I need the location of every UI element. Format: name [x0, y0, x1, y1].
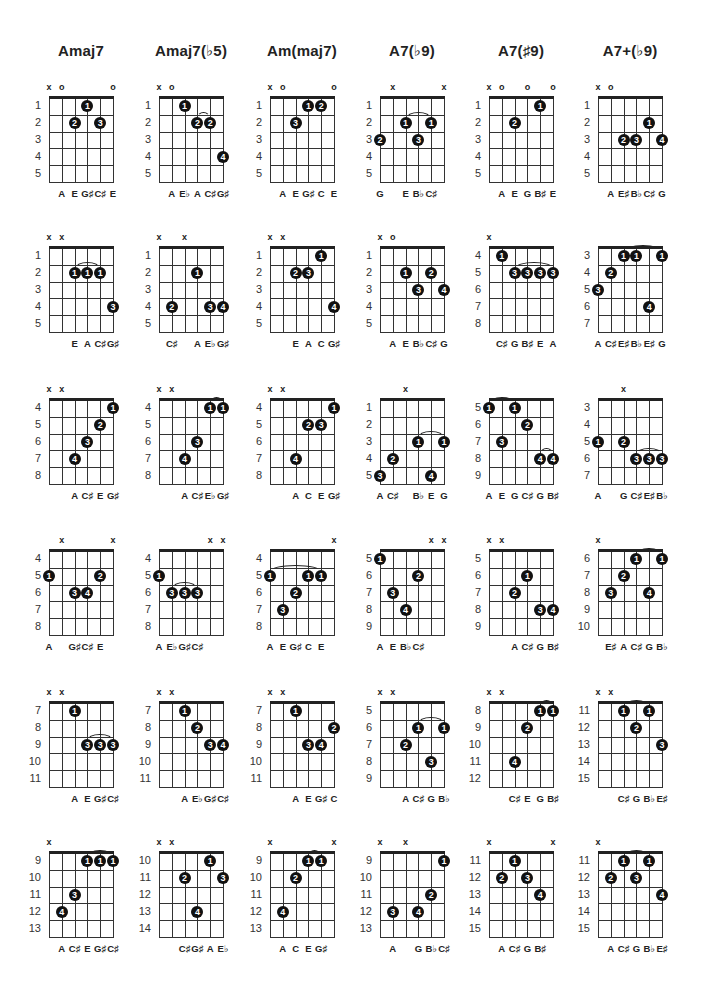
- string-line: [553, 551, 554, 635]
- fret-line: [49, 467, 114, 468]
- fret-number: 5: [248, 317, 262, 329]
- string-line: [502, 98, 503, 182]
- fret-line: [489, 601, 554, 602]
- finger-dot: 1: [618, 250, 630, 262]
- string-line: [636, 853, 637, 937]
- string-line: [49, 853, 50, 937]
- fret-number: 7: [137, 603, 151, 615]
- finger-dot: 1: [302, 100, 314, 112]
- fret-line: [270, 887, 335, 888]
- open-string-icon: o: [167, 82, 177, 92]
- finger-dot: 4: [656, 889, 668, 901]
- finger-dot: 1: [630, 250, 642, 262]
- string-line: [393, 853, 394, 937]
- finger-dot: 2: [302, 419, 314, 431]
- note-label: G: [654, 338, 670, 349]
- fret-line: [598, 937, 663, 938]
- fret-line: [49, 787, 114, 788]
- finger-dot: 1: [328, 402, 340, 414]
- string-line: [393, 703, 394, 787]
- finger-dot: 1: [191, 267, 203, 279]
- string-line: [553, 248, 554, 332]
- fret-number: 14: [576, 755, 590, 767]
- fret-number: 4: [248, 401, 262, 413]
- finger-dot: 4: [191, 906, 203, 918]
- muted-string-icon: x: [484, 837, 494, 847]
- fret-number: 5: [27, 569, 41, 581]
- fret-line: [489, 282, 554, 283]
- fret-line: [598, 298, 663, 299]
- fret-line: [270, 165, 335, 166]
- fret-number: 5: [27, 317, 41, 329]
- finger-dot: 3: [630, 453, 642, 465]
- fret-number: 4: [358, 452, 372, 464]
- finger-dot: 3: [81, 739, 93, 751]
- string-line: [380, 703, 381, 787]
- fret-number: 5: [467, 552, 481, 564]
- finger-dot: 3: [302, 267, 314, 279]
- string-line: [223, 248, 224, 332]
- finger-dot: 3: [630, 134, 642, 146]
- muted-string-icon: x: [388, 82, 398, 92]
- finger-dot: 3: [656, 453, 668, 465]
- fret-number: 8: [467, 452, 481, 464]
- nut-bar: [380, 701, 445, 704]
- fret-line: [270, 870, 335, 871]
- string-line: [283, 98, 284, 182]
- fret-number: 7: [467, 300, 481, 312]
- finger-dot: 1: [217, 402, 229, 414]
- fret-line: [159, 467, 224, 468]
- nut-bar: [159, 701, 224, 704]
- muted-string-icon: x: [154, 837, 164, 847]
- string-line: [62, 98, 63, 182]
- finger-dot: 3: [534, 604, 546, 616]
- string-line: [283, 248, 284, 332]
- fret-number: 12: [137, 888, 151, 900]
- finger-dot: 4: [547, 604, 559, 616]
- string-line: [489, 98, 490, 182]
- fret-line: [159, 635, 224, 636]
- fret-number: 2: [576, 116, 590, 128]
- fret-number: 1: [27, 99, 41, 111]
- finger-dot: 2: [179, 872, 191, 884]
- fret-number: 14: [137, 922, 151, 934]
- string-line: [283, 400, 284, 484]
- finger-dot: 2: [618, 436, 630, 448]
- finger-dot: 1: [107, 855, 119, 867]
- fret-number: 6: [576, 552, 590, 564]
- fret-number: 3: [576, 249, 590, 261]
- finger-dot: 1: [374, 553, 386, 565]
- open-string-icon: o: [329, 82, 339, 92]
- fret-number: 8: [27, 620, 41, 632]
- nut-bar: [270, 96, 335, 99]
- finger-dot: 2: [328, 722, 340, 734]
- fret-line: [380, 601, 445, 602]
- fret-line: [270, 434, 335, 435]
- string-line: [502, 551, 503, 635]
- fret-number: 6: [576, 452, 590, 464]
- finger-dot: 3: [387, 906, 399, 918]
- fret-number: 1: [358, 249, 372, 261]
- nut-bar: [159, 549, 224, 552]
- note-label: B♯: [532, 943, 548, 954]
- note-label: C: [326, 793, 342, 804]
- fret-line: [380, 417, 445, 418]
- fret-line: [489, 920, 554, 921]
- finger-dot: 3: [204, 301, 216, 313]
- fret-line: [489, 737, 554, 738]
- fret-line: [380, 585, 445, 586]
- string-line: [334, 248, 335, 332]
- note-label: B♯: [545, 641, 561, 652]
- fret-number: 11: [248, 888, 262, 900]
- note-label: C♯: [436, 943, 452, 954]
- fret-number: 10: [576, 620, 590, 632]
- fret-number: 8: [576, 586, 590, 598]
- fret-number: 7: [27, 603, 41, 615]
- string-line: [308, 248, 309, 332]
- finger-dot: 3: [412, 284, 424, 296]
- fret-line: [49, 601, 114, 602]
- fret-line: [49, 298, 114, 299]
- string-line: [100, 248, 101, 332]
- fret-number: 9: [467, 721, 481, 733]
- finger-dot: 1: [412, 722, 424, 734]
